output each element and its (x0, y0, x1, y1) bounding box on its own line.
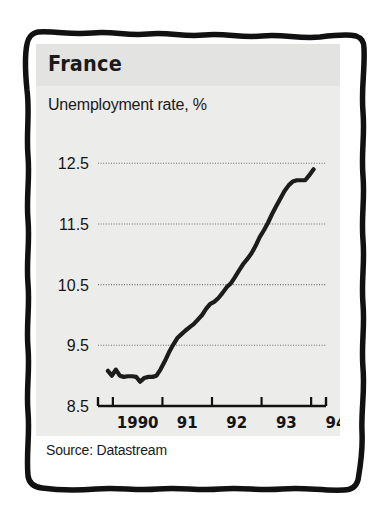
y-tick-label: 10.5 (58, 277, 89, 294)
data-series-line (108, 169, 314, 381)
x-tick-label: 92 (226, 414, 247, 432)
x-tick-label: 91 (177, 414, 198, 432)
y-tick-label: 12.5 (58, 155, 89, 172)
y-tick-label: 8.5 (67, 398, 89, 415)
gridlines-group (98, 163, 326, 345)
x-tick-label: 1990 (117, 414, 159, 432)
y-tick-label: 9.5 (67, 337, 89, 354)
chart-panel: France Unemployment rate, % 12.511.510.5… (36, 44, 340, 476)
x-tick-label: 94 (325, 414, 340, 432)
y-tick-label: 11.5 (59, 216, 89, 233)
x-tick-label: 93 (276, 414, 297, 432)
chart-figure: France Unemployment rate, % 12.511.510.5… (0, 0, 385, 522)
y-axis-tick-labels: 12.511.510.59.58.5 (58, 155, 89, 415)
plot-area: 12.511.510.59.58.5 199091929394 (36, 44, 340, 476)
x-axis-ticks (113, 397, 311, 406)
x-axis-tick-labels: 199091929394 (117, 414, 340, 432)
series-path (108, 169, 314, 381)
source-note: Source: Datastream (46, 442, 167, 458)
